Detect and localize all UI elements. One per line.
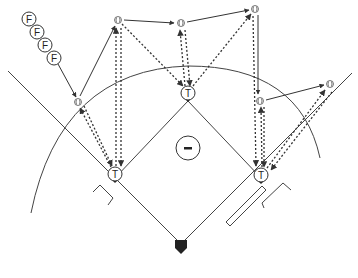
fielder-marker: F <box>47 51 61 65</box>
baseballs <box>75 6 334 106</box>
thrower-third-base: T <box>108 167 122 181</box>
thrower-second-base: T <box>181 86 195 100</box>
fielder-marker: F <box>30 25 44 39</box>
svg-text:F: F <box>26 14 32 25</box>
svg-text:F: F <box>42 40 48 51</box>
baseball-icon <box>327 81 334 88</box>
third-base-coach-box <box>93 185 113 205</box>
throw-paths <box>80 14 332 170</box>
svg-text:F: F <box>34 27 40 38</box>
diagram-canvas: F F F F T T T <box>0 0 358 278</box>
fielders-queue: F F F F <box>22 12 61 65</box>
svg-text:T: T <box>185 88 191 99</box>
svg-text:T: T <box>112 169 118 180</box>
baseball-icon <box>75 99 82 106</box>
fielder-marker: F <box>22 12 36 26</box>
baseball-icon <box>178 20 185 27</box>
pitcher-marker <box>176 136 200 160</box>
drill-diagram: F F F F T T T <box>0 0 358 278</box>
svg-text:T: T <box>258 170 264 181</box>
baseball-icon <box>115 17 122 24</box>
baseball-icon <box>252 6 259 13</box>
home-plate-icon <box>175 240 187 254</box>
throwers: T T T <box>108 86 268 182</box>
first-base-coach-box <box>262 183 291 208</box>
baseball-icon <box>257 98 264 105</box>
infield-arc <box>31 66 320 213</box>
thrower-first-base: T <box>254 168 268 182</box>
svg-text:F: F <box>51 53 57 64</box>
fielder-marker: F <box>38 38 52 52</box>
runner-lane <box>226 186 266 226</box>
